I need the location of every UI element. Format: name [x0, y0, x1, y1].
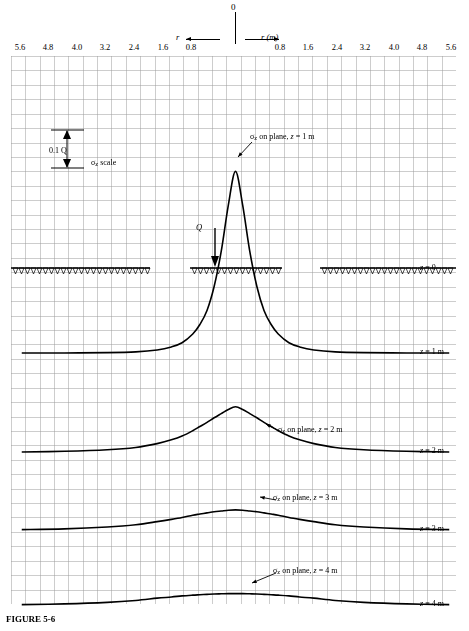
vertical-axis-line: [235, 12, 236, 44]
axis-arrow-left-icon: [186, 39, 220, 40]
axis-tick-right-1: 1.6: [297, 42, 319, 52]
depth-label-z2: z = 2 m: [420, 446, 444, 455]
curve-label-z4: σz on plane, z = 4 m: [273, 566, 337, 575]
axis-tick-right-6: 5.6: [440, 42, 462, 52]
depth-label-z3: z = 3 m: [420, 524, 444, 533]
depth-label-z0: z = 0: [420, 263, 436, 272]
figure-caption: FIGURE 5-6: [6, 614, 55, 624]
axis-tick-left-6: 0.8: [180, 42, 202, 52]
grid-background: [11, 56, 456, 604]
axis-tick-right-0: 0.8: [269, 42, 291, 52]
axis-tick-left-4: 2.4: [123, 42, 145, 52]
origin-label: 0: [231, 2, 236, 12]
scale-bar-label: 0.1 Q: [49, 146, 67, 155]
axis-tick-right-3: 3.2: [354, 42, 376, 52]
axis-symbol-left: r: [176, 32, 179, 42]
axis-tick-labels: 5.64.84.03.22.41.60.80.81.62.43.24.04.85…: [0, 42, 469, 56]
axis-tick-right-2: 2.4: [326, 42, 348, 52]
depth-label-z4: z = 4 m: [420, 599, 444, 608]
curve-label-z2: σz on plane, z = 2 m: [278, 425, 342, 434]
axis-tick-left-5: 1.6: [152, 42, 174, 52]
axis-tick-left-1: 4.8: [37, 42, 59, 52]
axis-symbol-right: r (m): [261, 32, 278, 42]
axis-tick-left-0: 5.6: [9, 42, 31, 52]
curve-label-z3: σz on plane, z = 3 m: [273, 493, 337, 502]
sigma-scale-label: σz scale: [91, 158, 116, 167]
axis-tick-right-4: 4.0: [383, 42, 405, 52]
axis-tick-right-5: 4.8: [411, 42, 433, 52]
figure-container: 0 r r (m) 5.64.84.03.22.41.60.80.81.62.4…: [0, 0, 469, 631]
axis-tick-left-2: 4.0: [66, 42, 88, 52]
load-label: Q: [196, 222, 202, 232]
depth-label-z1: z = 1 m: [420, 347, 444, 356]
axis-tick-left-3: 3.2: [94, 42, 116, 52]
curve-label-z1: σz on plane, z = 1 m: [250, 132, 314, 141]
